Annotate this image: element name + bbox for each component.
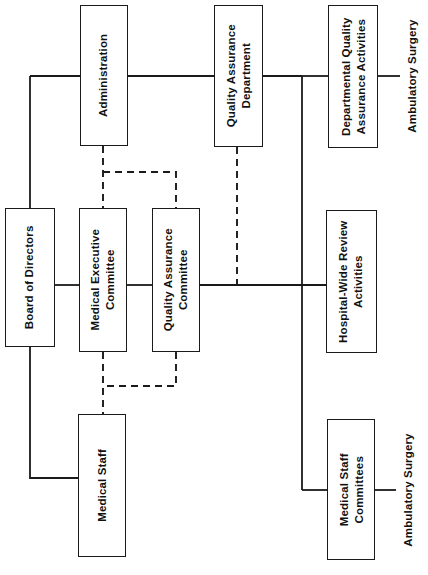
organizational-chart: AdministrationQuality Assurance Departme… [0, 0, 428, 575]
node-label-quality-assurance-committee: Quality Assurance Committee [161, 228, 190, 331]
node-medical-executive-committee[interactable]: Medical Executive Committee [79, 208, 127, 352]
node-label-quality-assurance-department: Quality Assurance Department [224, 24, 253, 127]
node-hospital-wide-review-activities[interactable]: Hospital-Wide Review Activities [326, 210, 377, 353]
node-label-medical-staff-committees: Medical Staff Committees [336, 453, 365, 526]
connector-board-down-to-medstaff [30, 347, 78, 478]
node-medical-staff-committees[interactable]: Medical Staff Committees [327, 419, 375, 560]
node-medical-staff[interactable]: Medical Staff [78, 414, 126, 557]
node-label-administration: Administration [97, 34, 112, 117]
node-quality-assurance-committee[interactable]: Quality Assurance Committee [152, 208, 200, 352]
connector-qac-dashed-branch [103, 352, 176, 386]
node-label-board-of-directors: Board of Directors [23, 226, 38, 330]
node-label-medical-staff: Medical Staff [95, 449, 110, 522]
free-label-ambulatory-surgery-bottom: Ambulatory Surgery [399, 415, 417, 565]
node-label-hospital-wide-review-activities: Hospital-Wide Review Activities [337, 220, 366, 342]
node-board-of-directors[interactable]: Board of Directors [5, 208, 55, 347]
node-label-medical-executive-committee: Medical Executive Committee [88, 229, 117, 331]
free-label-ambulatory-surgery-top: Ambulatory Surgery [403, 1, 421, 151]
node-departmental-quality-assurance-activities[interactable]: Departmental Quality Assurance Activitie… [328, 5, 378, 148]
node-administration[interactable]: Administration [80, 5, 128, 146]
node-label-departmental-quality-assurance-activities: Departmental Quality Assurance Activitie… [338, 17, 367, 136]
node-quality-assurance-department[interactable]: Quality Assurance Department [214, 5, 263, 147]
connector-admin-dashed-branch-qac [103, 172, 176, 208]
